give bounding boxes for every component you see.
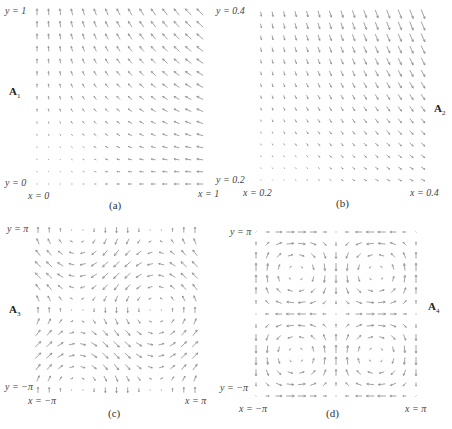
field-arrow <box>357 289 361 293</box>
panel-b-y-bottom-label: y = 0.2 <box>216 174 245 185</box>
field-arrow <box>71 134 72 136</box>
field-arrow <box>163 21 168 27</box>
field-arrow <box>197 21 203 27</box>
field-arrow <box>83 159 85 160</box>
field-arrow <box>318 179 320 180</box>
field-arrow <box>114 261 120 267</box>
field-arrow <box>174 9 179 15</box>
field-arrow <box>284 143 285 145</box>
panel-d-arrows <box>255 231 417 397</box>
arrow-head-icon <box>106 171 107 172</box>
field-arrow <box>46 273 52 278</box>
field-arrow <box>311 253 315 257</box>
field-arrow <box>35 273 41 279</box>
field-arrow <box>125 262 131 267</box>
field-arrow <box>272 156 273 158</box>
field-arrow <box>163 34 168 40</box>
panel-b-x-left-label: x = 0.2 <box>243 187 272 198</box>
field-arrow <box>307 167 309 169</box>
field-arrow <box>277 371 281 375</box>
field-arrow <box>114 273 120 279</box>
field-arrow <box>181 342 187 347</box>
field-arrow <box>311 289 315 293</box>
panel-c-arrows <box>35 227 198 393</box>
field-arrow <box>83 147 85 148</box>
field-arrow <box>311 335 315 339</box>
field-arrow <box>197 46 203 51</box>
field-arrow <box>256 396 257 397</box>
field-arrow <box>391 289 395 293</box>
field-arrow <box>103 342 109 347</box>
field-arrow <box>256 232 257 233</box>
field-arrow <box>151 9 156 15</box>
field-arrow <box>185 21 191 27</box>
field-arrow <box>174 21 179 27</box>
field-arrow <box>261 120 262 122</box>
field-arrow <box>284 168 285 169</box>
field-arrow <box>94 159 96 160</box>
arrow-head-icon <box>37 109 38 110</box>
field-arrow <box>416 232 417 233</box>
field-arrow <box>329 179 331 180</box>
field-arrow <box>261 168 262 169</box>
field-arrow <box>192 273 198 279</box>
field-arrow <box>181 353 187 358</box>
panel-c-y-top-label: y = π <box>7 223 28 234</box>
field-arrow <box>416 396 417 397</box>
panel-b-x-right-label: x = 0.4 <box>410 187 439 198</box>
field-arrow <box>272 180 273 181</box>
field-arrow <box>284 180 285 181</box>
field-arrow <box>295 179 296 180</box>
field-arrow <box>103 353 109 358</box>
field-arrow <box>277 289 281 293</box>
field-arrow <box>103 262 109 267</box>
field-arrow <box>151 59 156 64</box>
field-arrow <box>311 371 315 375</box>
field-arrow <box>125 342 131 347</box>
field-arrow <box>60 134 61 136</box>
field-arrow <box>307 179 309 180</box>
field-arrow <box>125 273 131 278</box>
panel-b-field-name: A2 <box>434 102 445 117</box>
field-arrow <box>391 253 395 257</box>
field-arrow <box>272 132 273 134</box>
field-arrow <box>307 155 309 157</box>
field-arrow <box>261 156 262 157</box>
field-arrow <box>272 144 273 146</box>
field-arrow <box>295 167 296 169</box>
arrow-head-icon <box>261 109 262 110</box>
field-arrow <box>35 341 41 347</box>
field-arrow <box>185 46 191 51</box>
panel-d-field-name: A4 <box>428 300 439 315</box>
field-arrow <box>60 121 61 123</box>
vector-field-figure <box>0 0 452 429</box>
panel-b-y-top-label: y = 0.4 <box>216 5 245 16</box>
panel-c-field-name: A3 <box>9 303 20 318</box>
field-arrow <box>60 171 61 172</box>
field-arrow <box>35 353 41 359</box>
field-arrow <box>48 121 49 123</box>
field-arrow <box>46 342 52 347</box>
field-arrow <box>163 9 168 15</box>
field-arrow <box>125 353 131 358</box>
field-arrow <box>357 253 361 257</box>
field-arrow <box>197 34 203 40</box>
panel-c-x-right-label: x = π <box>185 395 206 406</box>
field-arrow <box>295 155 296 157</box>
field-arrow <box>181 273 187 278</box>
panel-a-arrows <box>36 9 203 185</box>
field-arrow <box>421 131 425 135</box>
field-arrow <box>46 353 52 358</box>
panel-d-caption: (d) <box>326 407 339 419</box>
field-arrow <box>272 168 273 169</box>
field-arrow <box>103 273 109 278</box>
field-arrow <box>192 261 198 267</box>
field-arrow <box>277 335 281 339</box>
field-arrow <box>48 134 49 136</box>
field-arrow <box>391 335 395 339</box>
arrow-head-icon <box>106 184 107 185</box>
field-arrow <box>318 167 320 169</box>
field-arrow <box>35 261 41 267</box>
field-arrow <box>46 262 52 267</box>
field-arrow <box>140 71 144 75</box>
